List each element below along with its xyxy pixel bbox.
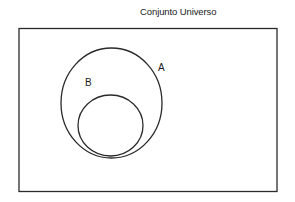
universe-rectangle (19, 29, 277, 192)
set-a-circle (61, 48, 162, 158)
venn-diagram: A B (0, 0, 295, 202)
set-a-label: A (158, 62, 165, 73)
set-b-circle (78, 95, 143, 156)
set-b-label: B (85, 77, 92, 88)
